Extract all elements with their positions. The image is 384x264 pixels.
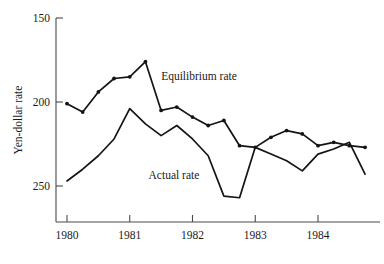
- data-point-equilibrium-rate-10: [222, 119, 226, 123]
- yen-dollar-rate-chart: 150200250 19801981198219831984 Yen-dolla…: [0, 0, 384, 264]
- x-axis: 19801981198219831984: [56, 215, 381, 241]
- data-point-equilibrium-rate-19: [363, 145, 367, 149]
- y-axis-title: Yen-dollar rate: [12, 86, 24, 155]
- x-tick-label-1984: 1984: [307, 229, 330, 241]
- data-point-equilibrium-rate-11: [238, 144, 242, 148]
- data-point-equilibrium-rate-3: [112, 77, 116, 81]
- data-point-equilibrium-rate-6: [159, 109, 163, 113]
- data-point-equilibrium-rate-4: [128, 75, 132, 79]
- data-point-equilibrium-rate-8: [191, 115, 195, 119]
- y-axis: 150200250: [33, 12, 63, 222]
- x-tick-label-1983: 1983: [244, 229, 267, 241]
- y-tick-label-150: 150: [33, 12, 51, 24]
- data-point-equilibrium-rate-0: [65, 102, 69, 106]
- y-axis-tick-labels: 150200250: [33, 12, 51, 192]
- chart-canvas: 150200250 19801981198219831984 Yen-dolla…: [0, 0, 384, 264]
- data-point-equilibrium-rate-13: [269, 135, 273, 139]
- series-label-equilibrium-rate: Equilibrium rate: [161, 70, 237, 83]
- series-line-actual-rate: [67, 109, 365, 198]
- data-point-equilibrium-rate-17: [332, 140, 336, 144]
- data-point-equilibrium-rate-16: [316, 144, 320, 148]
- x-axis-ticks: [67, 215, 318, 222]
- data-point-equilibrium-rate-7: [175, 105, 179, 109]
- series-annotation-group: Equilibrium rateActual rate: [149, 70, 237, 181]
- data-point-equilibrium-rate-9: [206, 124, 210, 128]
- data-point-equilibrium-rate-5: [144, 60, 148, 64]
- x-tick-label-1980: 1980: [56, 229, 79, 241]
- data-point-equilibrium-rate-1: [81, 110, 85, 114]
- data-point-equilibrium-rate-15: [300, 132, 304, 136]
- data-point-equilibrium-rate-14: [285, 129, 289, 133]
- y-tick-label-200: 200: [33, 96, 51, 108]
- x-tick-label-1982: 1982: [181, 229, 204, 241]
- y-axis-ticks: [56, 18, 63, 186]
- y-tick-label-250: 250: [33, 180, 51, 192]
- x-tick-label-1981: 1981: [118, 229, 141, 241]
- x-axis-tick-labels: 19801981198219831984: [56, 229, 330, 241]
- data-point-equilibrium-rate-2: [96, 90, 100, 94]
- series-label-actual-rate: Actual rate: [149, 169, 200, 181]
